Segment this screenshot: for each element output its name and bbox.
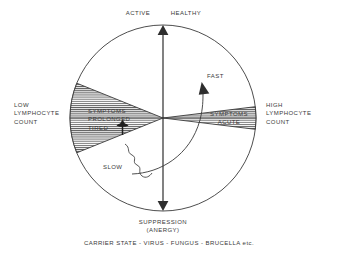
label-slow: SLOW: [103, 163, 131, 171]
fast-curved-arrow: [132, 92, 203, 174]
axis-arrowhead-down: [158, 201, 169, 211]
slow-wavy-line: [125, 144, 152, 177]
label-suppression-anergy: SUPPRESSION (ANERGY): [113, 218, 213, 235]
label-active: ACTIVE: [117, 9, 159, 17]
label-low-lymphocyte-count: LOW LYMPHOCYTE COUNT: [14, 101, 70, 126]
axis-arrowhead-up: [158, 25, 169, 35]
label-symptoms-prolonged-tired: SYMPTOMS PROLONGED TIRED: [88, 107, 152, 132]
label-symptoms-acute: SYMPTOMS ACUTE: [205, 110, 253, 127]
fast-arrowhead: [196, 81, 209, 96]
caption-carrier-state: CARRIER STATE - VIRUS - FUNGUS - BRUCELL…: [40, 239, 298, 247]
label-healthy: HEALTHY: [162, 9, 210, 17]
diagram-canvas: ACTIVE HEALTHY LOW LYMPHOCYTE COUNT HIGH…: [0, 0, 338, 258]
label-high-lymphocyte-count: HIGH LYMPHOCYTE COUNT: [266, 101, 324, 126]
label-fast: FAST: [207, 72, 233, 80]
